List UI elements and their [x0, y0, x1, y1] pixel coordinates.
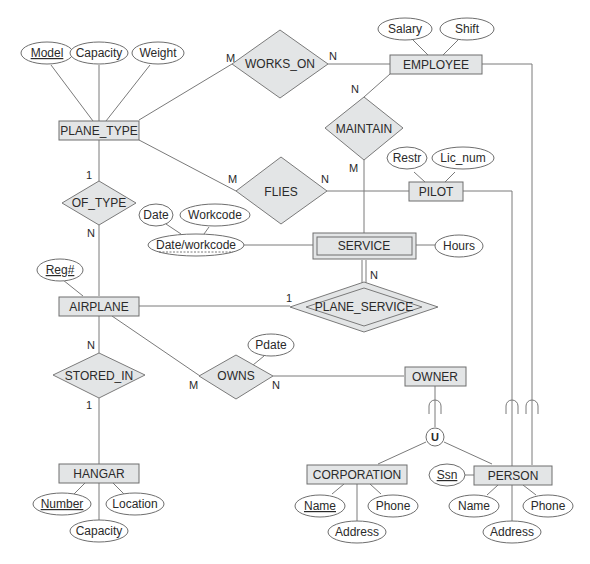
relationship-owns: OWNS: [199, 355, 273, 399]
relationship-of-type: OF_TYPE: [62, 181, 136, 225]
svg-text:AIRPLANE: AIRPLANE: [69, 300, 128, 314]
attribute-date-workcode: Date/workcode: [148, 234, 244, 256]
relationship-works-on: WORKS_ON: [232, 30, 328, 98]
svg-text:Salary: Salary: [388, 22, 422, 36]
entity-owner: OWNER: [405, 367, 466, 386]
svg-text:SERVICE: SERVICE: [338, 239, 390, 253]
svg-text:Shift: Shift: [455, 22, 480, 36]
attribute-salary: Salary: [378, 18, 432, 40]
svg-text:Restr: Restr: [393, 151, 422, 165]
attribute-person-name: Name: [449, 495, 499, 517]
svg-text:N: N: [329, 50, 337, 62]
svg-text:Phone: Phone: [531, 499, 566, 513]
svg-text:MAINTAIN: MAINTAIN: [336, 122, 392, 136]
svg-text:N: N: [87, 339, 95, 351]
svg-text:OF_TYPE: OF_TYPE: [72, 196, 127, 210]
svg-text:Number: Number: [41, 497, 84, 511]
attribute-corporation-address: Address: [328, 521, 386, 543]
entity-plane-type: PLANE_TYPE: [59, 121, 139, 140]
svg-text:PLANE_TYPE: PLANE_TYPE: [60, 124, 137, 138]
svg-text:PLANE_SERVICE: PLANE_SERVICE: [315, 300, 414, 314]
svg-text:HANGAR: HANGAR: [73, 467, 125, 481]
svg-text:CORPORATION: CORPORATION: [313, 468, 401, 482]
svg-text:Hours: Hours: [443, 239, 475, 253]
svg-text:N: N: [321, 173, 329, 185]
svg-text:FLIES: FLIES: [264, 185, 297, 199]
attribute-person-phone: Phone: [523, 495, 573, 517]
attribute-location: Location: [106, 493, 164, 515]
attribute-plane-type-capacity: Capacity: [70, 42, 128, 64]
svg-text:Ssn: Ssn: [437, 468, 458, 482]
svg-text:Phone: Phone: [376, 499, 411, 513]
entity-corporation: CORPORATION: [307, 465, 407, 484]
svg-text:EMPLOYEE: EMPLOYEE: [403, 58, 469, 72]
svg-text:Weight: Weight: [139, 46, 177, 60]
attribute-lic-num: Lic_num: [432, 147, 494, 169]
svg-text:Model: Model: [31, 46, 64, 60]
svg-text:M: M: [226, 52, 235, 64]
attribute-number: Number: [33, 493, 91, 515]
svg-text:OWNER: OWNER: [412, 370, 458, 384]
svg-text:U: U: [431, 431, 439, 443]
attribute-date: Date: [139, 204, 173, 226]
svg-text:WORKS_ON: WORKS_ON: [245, 57, 315, 71]
entity-airplane: AIRPLANE: [59, 297, 139, 316]
svg-text:N: N: [370, 269, 378, 281]
relationship-stored-in: STORED_IN: [53, 353, 145, 398]
svg-text:N: N: [351, 83, 359, 95]
svg-text:M: M: [189, 379, 198, 391]
connector-lines: [51, 40, 538, 521]
union-category-icon: U: [426, 428, 444, 446]
attribute-workcode: Workcode: [180, 204, 250, 226]
svg-text:Location: Location: [112, 497, 157, 511]
svg-text:1: 1: [86, 169, 92, 181]
attribute-corporation-name: Name: [295, 495, 345, 517]
attribute-weight: Weight: [132, 42, 184, 64]
svg-text:Workcode: Workcode: [188, 208, 242, 222]
svg-text:PILOT: PILOT: [419, 185, 454, 199]
svg-text:M: M: [228, 173, 237, 185]
svg-text:Name: Name: [458, 499, 490, 513]
entity-service-weak: SERVICE: [313, 233, 416, 259]
svg-text:Name: Name: [304, 499, 336, 513]
svg-text:1: 1: [286, 292, 292, 304]
svg-text:N: N: [272, 379, 280, 391]
entity-employee: EMPLOYEE: [390, 55, 482, 74]
entity-pilot: PILOT: [409, 182, 463, 201]
attribute-restr: Restr: [387, 147, 427, 169]
attribute-shift: Shift: [440, 18, 494, 40]
attribute-person-address: Address: [483, 521, 541, 543]
svg-text:Date/workcode: Date/workcode: [156, 238, 236, 252]
svg-text:Capacity: Capacity: [76, 524, 123, 538]
svg-text:Reg#: Reg#: [46, 263, 75, 277]
svg-text:M: M: [349, 162, 358, 174]
svg-text:Capacity: Capacity: [76, 46, 123, 60]
svg-text:OWNS: OWNS: [217, 369, 254, 383]
svg-text:Lic_num: Lic_num: [440, 151, 485, 165]
attribute-reg: Reg#: [37, 259, 83, 281]
svg-text:Address: Address: [335, 525, 379, 539]
attribute-corporation-phone: Phone: [368, 495, 418, 517]
entity-person: PERSON: [474, 466, 552, 485]
relationship-plane-service: PLANE_SERVICE: [290, 282, 438, 332]
svg-text:1: 1: [86, 399, 92, 411]
entity-hangar: HANGAR: [59, 464, 139, 483]
svg-text:STORED_IN: STORED_IN: [65, 369, 133, 383]
attribute-ssn: Ssn: [429, 464, 465, 486]
svg-text:PERSON: PERSON: [488, 469, 539, 483]
svg-text:Pdate: Pdate: [255, 338, 287, 352]
attribute-hours: Hours: [435, 235, 483, 257]
svg-text:N: N: [87, 227, 95, 239]
relationship-maintain: MAINTAIN: [325, 97, 403, 160]
svg-text:Address: Address: [490, 525, 534, 539]
svg-text:Date: Date: [143, 208, 169, 222]
attribute-model: Model: [21, 42, 73, 64]
attribute-hangar-capacity: Capacity: [70, 520, 128, 542]
attribute-pdate: Pdate: [248, 334, 294, 356]
er-diagram: Model Capacity Weight Salary Shift Restr…: [0, 0, 590, 564]
